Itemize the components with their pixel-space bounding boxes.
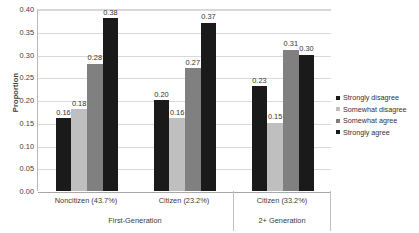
legend-label: Somewhat disagree <box>343 106 407 113</box>
bar-item[interactable]: 0.38 <box>103 9 119 191</box>
bar[interactable] <box>169 118 185 191</box>
bar-item[interactable]: 0.28 <box>87 9 103 191</box>
bar-value-label: 0.15 <box>268 112 282 121</box>
y-axis-tick-label: 0.25 <box>0 73 34 82</box>
legend: Strongly disagreeSomewhat disagreeSomewh… <box>336 92 419 138</box>
bar-value-label: 0.18 <box>72 99 86 108</box>
generation-group-label: First-Generation <box>37 216 233 225</box>
bar[interactable] <box>154 100 170 191</box>
bar-value-label: 0.30 <box>299 44 313 53</box>
y-axis-tick-label: 0.20 <box>0 96 34 105</box>
bar-value-label: 0.23 <box>252 76 266 85</box>
generation-group-label: 2+ Generation <box>233 216 331 225</box>
y-axis-tick-label: 0.00 <box>0 187 34 196</box>
legend-swatch-icon <box>336 130 340 134</box>
bar-value-label: 0.38 <box>103 8 117 17</box>
bar-group: 0.160.180.280.38 <box>56 10 119 191</box>
bar-group: 0.230.150.310.30 <box>252 10 315 191</box>
group-separator <box>233 191 234 231</box>
legend-item[interactable]: Somewhat agree <box>336 115 419 127</box>
legend-swatch-icon <box>336 107 340 111</box>
bar[interactable] <box>267 123 283 191</box>
bar-item[interactable]: 0.16 <box>56 9 72 191</box>
plot-area: 0.160.180.280.380.200.160.270.370.230.15… <box>37 9 331 191</box>
bar[interactable] <box>201 23 217 191</box>
bar[interactable] <box>283 50 299 191</box>
legend-label: Strongly disagree <box>343 94 399 101</box>
y-axis-tick-label: 0.35 <box>0 27 34 36</box>
bar[interactable] <box>252 86 268 191</box>
bar-item[interactable]: 0.15 <box>267 9 283 191</box>
legend-item[interactable]: Somewhat disagree <box>336 104 419 116</box>
category-label: Noncitizen (43.7%) <box>37 196 135 205</box>
bar-item[interactable]: 0.16 <box>169 9 185 191</box>
bar-value-label: 0.31 <box>284 39 298 48</box>
bar-item[interactable]: 0.37 <box>201 9 217 191</box>
category-axis-tier-categories: Noncitizen (43.7%)Citizen (23.2%)Citizen… <box>37 191 331 211</box>
bar[interactable] <box>103 18 119 191</box>
legend-item[interactable]: Strongly disagree <box>336 92 419 104</box>
bar-value-label: 0.20 <box>154 90 168 99</box>
bar-item[interactable]: 0.31 <box>283 9 299 191</box>
bar[interactable] <box>299 55 315 192</box>
category-label: Citizen (33.2%) <box>233 196 331 205</box>
bar[interactable] <box>71 109 87 191</box>
bar-value-label: 0.28 <box>88 53 102 62</box>
bar[interactable] <box>185 68 201 191</box>
category-axis-tier-groups: First-Generation2+ Generation <box>37 211 331 233</box>
category-axis: Noncitizen (43.7%)Citizen (23.2%)Citizen… <box>37 191 331 233</box>
legend-swatch-icon <box>336 96 340 100</box>
bar-value-label: 0.16 <box>56 108 70 117</box>
bar-item[interactable]: 0.27 <box>185 9 201 191</box>
bar-value-label: 0.27 <box>186 58 200 67</box>
legend-label: Strongly agree <box>343 129 390 136</box>
bar-item[interactable]: 0.18 <box>71 9 87 191</box>
legend-swatch-icon <box>336 119 340 123</box>
bar-item[interactable]: 0.23 <box>252 9 268 191</box>
bar[interactable] <box>87 64 103 191</box>
y-axis-tick-label: 0.10 <box>0 141 34 150</box>
category-label: Citizen (23.2%) <box>135 196 233 205</box>
bar[interactable] <box>56 118 72 191</box>
axis-right-edge <box>330 191 331 231</box>
bars-layer: 0.160.180.280.380.200.160.270.370.230.15… <box>38 10 331 191</box>
y-axis-tick-label: 0.40 <box>0 5 34 14</box>
y-axis-tick-label: 0.15 <box>0 118 34 127</box>
bar-group: 0.200.160.270.37 <box>154 10 217 191</box>
bar-chart: Proportion 0.400.350.300.250.200.150.100… <box>0 0 419 233</box>
bar-value-label: 0.16 <box>170 108 184 117</box>
y-axis-tick-label: 0.30 <box>0 50 34 59</box>
bar-value-label: 0.37 <box>201 12 215 21</box>
legend-label: Somewhat agree <box>343 117 397 124</box>
legend-item[interactable]: Strongly agree <box>336 127 419 139</box>
y-axis-tick-label: 0.05 <box>0 164 34 173</box>
bar-item[interactable]: 0.20 <box>154 9 170 191</box>
bar-item[interactable]: 0.30 <box>299 9 315 191</box>
y-axis-tick-labels: 0.400.350.300.250.200.150.100.050.00 <box>0 0 34 233</box>
